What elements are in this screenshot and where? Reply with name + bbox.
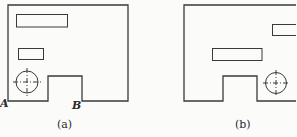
- panel-b: (b): [184, 5, 296, 131]
- panel-b-caption: (b): [235, 118, 251, 131]
- panel-a-caption: (a): [57, 118, 72, 131]
- panel-a-slot-upper: [17, 15, 68, 28]
- panel-a-hole-crosshair-icon: [13, 68, 41, 96]
- panel-b-slot-lower: [213, 49, 263, 61]
- point-label-a: A: [0, 97, 9, 110]
- panel-a-slot-lower: [19, 49, 44, 60]
- panel-a: A B (a): [0, 5, 128, 131]
- diagram-canvas: A B (a) (b): [0, 0, 296, 137]
- panel-b-hole-crosshair-icon: [263, 70, 290, 97]
- panel-b-outline: [184, 5, 296, 101]
- point-label-b: B: [71, 99, 81, 112]
- panel-b-slot-upper: [273, 25, 297, 36]
